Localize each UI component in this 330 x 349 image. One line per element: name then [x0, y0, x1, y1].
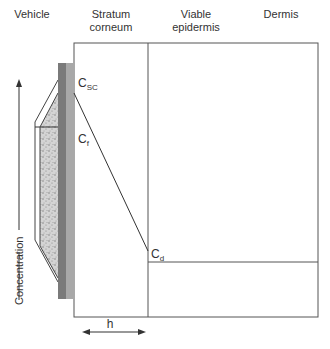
h-label: h: [107, 317, 114, 331]
concentration-label: Concentration: [13, 237, 25, 306]
right-arrow-icon: [138, 329, 146, 335]
left-arrow-icon: [82, 329, 90, 335]
up-arrow-icon: [16, 79, 22, 87]
dark-membrane-bar: [58, 63, 66, 299]
light-membrane-bar: [66, 63, 74, 299]
concentration-axis: Concentration: [13, 79, 25, 305]
sc-gradient-line: [74, 93, 148, 251]
h-thickness-indicator: h: [82, 317, 146, 335]
diffusion-diagram: CSC Cf Cd Concentration h: [0, 0, 330, 349]
c-f-label: Cf: [78, 132, 90, 148]
c-sc-label: CSC: [78, 76, 98, 92]
skin-layers-box: [74, 43, 318, 317]
c-d-label: Cd: [151, 247, 164, 263]
